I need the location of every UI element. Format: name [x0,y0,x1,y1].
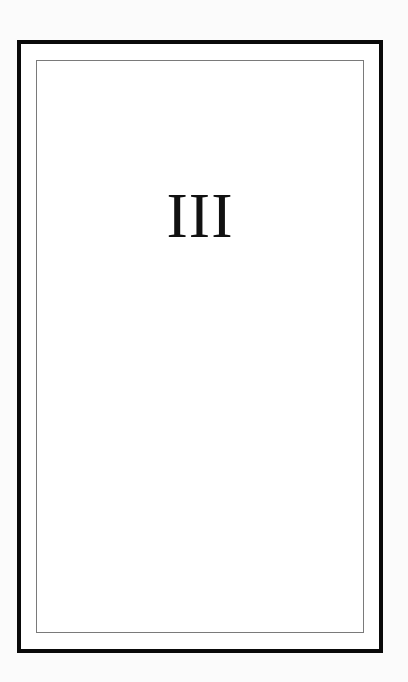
chapter-numeral-heading: III [37,184,363,248]
inner-page-border: III [36,60,364,633]
outer-page-border: III [17,40,383,653]
